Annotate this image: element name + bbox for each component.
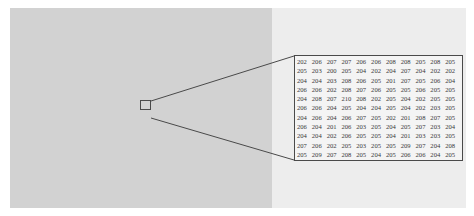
pixel-value: 206 <box>312 141 327 150</box>
pixel-value: 202 <box>445 66 460 75</box>
pixel-value: 204 <box>416 66 431 75</box>
pixel-value: 205 <box>401 122 416 131</box>
pixel-value: 208 <box>401 57 416 66</box>
pixel-value: 204 <box>401 94 416 103</box>
pixel-value: 206 <box>416 85 431 94</box>
pixel-value: 207 <box>356 113 371 122</box>
pixel-value: 201 <box>401 131 416 140</box>
pixel-value: 206 <box>312 113 327 122</box>
pixel-value: 202 <box>327 131 342 140</box>
pixel-value: 202 <box>371 66 386 75</box>
pixel-value: 206 <box>297 122 312 131</box>
pixel-value: 205 <box>430 85 445 94</box>
pixel-value: 207 <box>327 94 342 103</box>
pixel-value: 205 <box>386 85 401 94</box>
pixel-value: 205 <box>341 103 356 112</box>
pixel-value: 207 <box>416 122 431 131</box>
pixel-value: 205 <box>371 113 386 122</box>
pixel-value: 202 <box>327 85 342 94</box>
pixel-value: 207 <box>430 113 445 122</box>
pixel-value: 206 <box>341 131 356 140</box>
pixel-value: 204 <box>312 76 327 85</box>
pixel-value: 208 <box>341 150 356 159</box>
pixel-value: 205 <box>371 122 386 131</box>
pixel-value: 205 <box>386 103 401 112</box>
pixel-value: 205 <box>445 103 460 112</box>
pixel-value: 209 <box>401 141 416 150</box>
pixel-value: 209 <box>312 150 327 159</box>
pixel-value: 204 <box>371 103 386 112</box>
pixel-value: 201 <box>401 113 416 122</box>
pixel-value: 204 <box>401 103 416 112</box>
pixel-value: 204 <box>445 122 460 131</box>
pixel-value: 202 <box>371 94 386 103</box>
pixel-value: 208 <box>312 94 327 103</box>
pixel-value: 205 <box>430 94 445 103</box>
pixel-value: 208 <box>386 57 401 66</box>
pixel-value: 203 <box>356 122 371 131</box>
pixel-value: 206 <box>312 57 327 66</box>
pixel-value: 206 <box>401 150 416 159</box>
pixel-value: 206 <box>356 57 371 66</box>
pixel-value: 205 <box>445 113 460 122</box>
pixel-value: 206 <box>341 122 356 131</box>
pixel-value: 205 <box>445 94 460 103</box>
pixel-value: 204 <box>371 150 386 159</box>
pixel-value: 204 <box>356 66 371 75</box>
pixel-value: 205 <box>386 94 401 103</box>
pixel-value: 208 <box>356 94 371 103</box>
pixel-value: 205 <box>416 57 431 66</box>
pixel-value: 207 <box>341 57 356 66</box>
pixel-value: 204 <box>430 150 445 159</box>
pixel-value: 205 <box>401 85 416 94</box>
pixel-value: 204 <box>297 113 312 122</box>
pixel-value: 206 <box>356 76 371 85</box>
pixel-value: 205 <box>445 57 460 66</box>
pixel-value: 204 <box>445 76 460 85</box>
pixel-value: 202 <box>386 113 401 122</box>
pixel-value: 205 <box>445 131 460 140</box>
pixel-value: 206 <box>371 85 386 94</box>
pixel-value-grid: 2022062072072062062082082052082052052032… <box>297 57 460 159</box>
pixel-value: 205 <box>341 141 356 150</box>
pixel-value: 204 <box>327 103 342 112</box>
pixel-value: 205 <box>341 66 356 75</box>
pixel-value: 205 <box>416 76 431 85</box>
pixel-value: 203 <box>416 131 431 140</box>
pixel-value: 205 <box>356 131 371 140</box>
pixel-value: 208 <box>341 76 356 85</box>
pixel-value: 203 <box>356 141 371 150</box>
pixel-value: 200 <box>327 66 342 75</box>
pixel-value: 204 <box>312 122 327 131</box>
pixel-value: 204 <box>297 76 312 85</box>
pixel-value: 203 <box>327 76 342 85</box>
pixel-value: 205 <box>445 150 460 159</box>
pixel-value: 207 <box>327 57 342 66</box>
pixel-value: 206 <box>297 103 312 112</box>
pixel-value: 205 <box>386 150 401 159</box>
pixel-value: 204 <box>312 131 327 140</box>
pixel-value: 204 <box>386 66 401 75</box>
pixel-value: 205 <box>371 141 386 150</box>
pixel-value: 207 <box>416 141 431 150</box>
pixel-value: 205 <box>371 76 386 85</box>
pixel-value: 206 <box>416 150 431 159</box>
pixel-value: 208 <box>445 141 460 150</box>
pixel-value: 208 <box>341 85 356 94</box>
pixel-value: 204 <box>430 141 445 150</box>
pixel-value: 202 <box>416 103 431 112</box>
pixel-value: 206 <box>430 76 445 85</box>
pixel-value: 205 <box>297 150 312 159</box>
pixel-value: 203 <box>312 66 327 75</box>
pixel-value: 205 <box>356 150 371 159</box>
pixel-value: 204 <box>297 131 312 140</box>
pixel-value: 203 <box>430 122 445 131</box>
pixel-value: 205 <box>371 131 386 140</box>
region-of-interest-box <box>140 100 151 110</box>
pixel-value: 208 <box>430 57 445 66</box>
pixel-value: 201 <box>386 76 401 85</box>
pixel-value: 203 <box>430 103 445 112</box>
pixel-value: 204 <box>386 122 401 131</box>
pixel-value: 205 <box>445 85 460 94</box>
pixel-value: 204 <box>297 94 312 103</box>
